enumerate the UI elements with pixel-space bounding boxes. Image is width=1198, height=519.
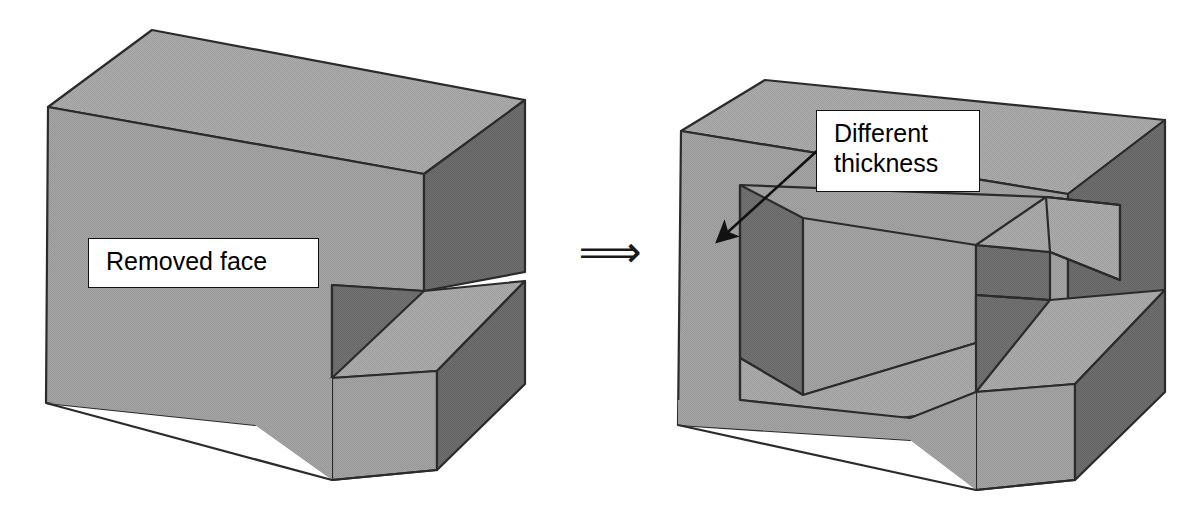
callout-different-thickness: Different thickness <box>816 110 980 192</box>
transform-double-arrow-icon: ⟹ <box>565 222 655 282</box>
diagram-canvas: ⟹ Removed face Different thickness <box>0 0 1198 519</box>
callout-removed-face: Removed face <box>88 238 319 288</box>
left-lower-arm-front-face <box>332 371 437 480</box>
right-lower-arm-front-face <box>976 384 1075 490</box>
